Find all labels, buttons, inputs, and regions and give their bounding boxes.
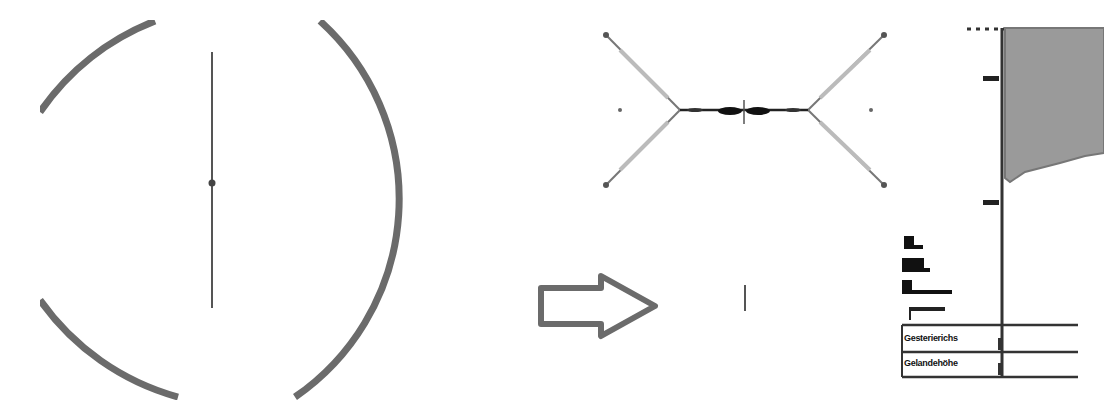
- x-structure-panel: [580, 20, 900, 200]
- circle-diagram: [0, 0, 500, 415]
- circle-arc-top-left: [40, 21, 155, 112]
- shaded-profile-region: [1005, 28, 1104, 182]
- profile-plot-panel: Gesterierichs Gelandehöhe: [895, 20, 1104, 415]
- axis-tick: [983, 76, 999, 81]
- transition-arrow-panel: [535, 272, 665, 344]
- circle-arc-bottom-left: [40, 300, 178, 397]
- legend: [902, 236, 952, 320]
- axis-tick: [983, 200, 999, 205]
- table-row-2-label: Gelandehöhe: [904, 358, 958, 368]
- center-point: [209, 180, 216, 187]
- arrow-right-icon: [535, 272, 665, 344]
- table-row-1-label: Gesterierichs: [904, 333, 958, 343]
- small-tick-panel: [740, 283, 750, 313]
- circle-arc-right: [295, 21, 399, 397]
- vertical-tick: [740, 283, 750, 313]
- x-structure-diagram: [580, 20, 900, 200]
- circle-cross-section-panel: [0, 0, 500, 415]
- profile-plot: [895, 20, 1104, 415]
